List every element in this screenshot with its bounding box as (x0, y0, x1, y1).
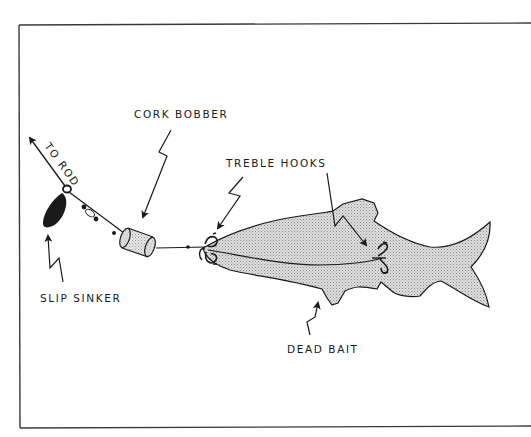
cork-bobber-label: CORK BOBBER (134, 108, 228, 120)
treble-hooks-head-pointer (218, 177, 243, 228)
cork-bobber-pointer (143, 130, 171, 217)
rig-diagram: TO ROD (0, 0, 531, 437)
dead-bait-label: DEAD BAIT (287, 343, 359, 355)
treble-hooks-label: TREBLE HOOKS (225, 157, 327, 169)
swivel-ring (63, 186, 71, 193)
dead-bait-pointer (307, 303, 318, 335)
dead-bait-fish (203, 199, 490, 307)
diagram-canvas: TO ROD (0, 0, 531, 437)
slip-sinker-label: SLIP SINKER (40, 292, 121, 304)
leader-line (156, 245, 207, 249)
line-beads (69, 192, 124, 235)
slip-sinker-pointer (48, 236, 63, 282)
slip-sinker-icon (43, 193, 66, 227)
cork-bobber-icon (118, 227, 158, 258)
